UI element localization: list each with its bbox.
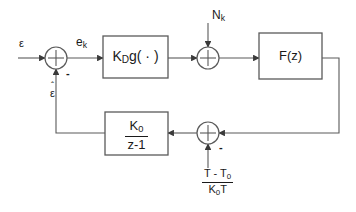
noise-subscript: k	[221, 13, 225, 23]
detector-gain-subscript: D	[122, 54, 129, 65]
offset-fraction: T - T0 K0T	[202, 168, 233, 197]
nco-denominator: z-1	[125, 137, 147, 152]
nco-gain-symbol: K	[130, 118, 139, 133]
error-symbol: e	[76, 35, 83, 49]
epsilon-hat-wrap: ˆ ε	[50, 88, 55, 99]
label-input-epsilon: ε	[19, 38, 24, 49]
block-filter-label: F(z)	[259, 49, 322, 62]
offset-denominator: K0T	[202, 183, 233, 197]
nco-gain-subscript: 0	[138, 124, 143, 134]
nco-numerator: K0	[125, 119, 147, 137]
label-estimate-epsilon-hat: ˆ ε	[50, 88, 55, 99]
nco-fraction: K0 z-1	[125, 119, 147, 152]
offset-num-subscript: 0	[227, 172, 231, 181]
block-diagram: KDg( · ) F(z) K0 z-1 ε ek Nk - ˆ ε - T -…	[0, 0, 356, 212]
label-noise-nk: Nk	[212, 9, 225, 23]
offset-den-period: T	[220, 183, 227, 195]
offset-den-gain: K	[208, 183, 215, 195]
error-subscript: k	[83, 40, 87, 50]
filter-transfer-symbol: F(z)	[279, 48, 302, 63]
label-minus-error-summer: -	[66, 68, 70, 79]
detector-function-symbol: g( · )	[129, 48, 159, 64]
noise-symbol: N	[212, 8, 221, 22]
label-minus-offset-summer: -	[219, 142, 223, 153]
offset-numerator: T - T0	[202, 168, 233, 183]
block-detector-label: KDg( · )	[103, 49, 168, 65]
hat-accent: ˆ	[51, 81, 54, 90]
offset-num-text: T - T	[204, 167, 227, 179]
wire-nco-feedback	[56, 69, 105, 133]
detector-gain-symbol: K	[112, 48, 121, 64]
block-nco-label: K0 z-1	[105, 119, 168, 152]
wiring-layer	[0, 0, 356, 212]
label-error-ek: ek	[76, 36, 87, 50]
label-timing-offset: T - T0 K0T	[202, 168, 233, 197]
